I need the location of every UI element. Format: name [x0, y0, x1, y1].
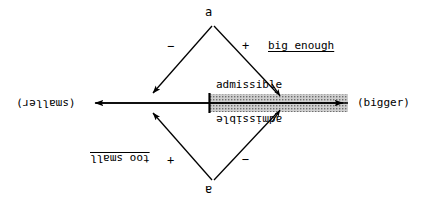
- node-top-a: a: [205, 6, 212, 18]
- label-too-small: too small: [90, 152, 150, 164]
- branch-bottom-plus: [153, 113, 212, 180]
- label-axis-left-smaller: (smaller): [16, 97, 76, 109]
- sign-bottom-left-plus: +: [167, 154, 174, 166]
- label-axis-right-bigger: (bigger): [357, 97, 410, 109]
- node-bottom-a: a: [205, 184, 212, 196]
- diagram-canvas: a a − + + − big enough too small admissi…: [0, 0, 424, 206]
- branch-top-minus: [153, 26, 212, 93]
- label-admissible-bottom: admissible: [216, 113, 282, 125]
- sign-bottom-right-minus: −: [242, 154, 249, 166]
- sign-top-right-plus: +: [242, 40, 249, 52]
- label-big-enough: big enough: [268, 40, 334, 52]
- label-admissible-top: admissible: [216, 79, 282, 91]
- sign-top-left-minus: −: [167, 40, 174, 52]
